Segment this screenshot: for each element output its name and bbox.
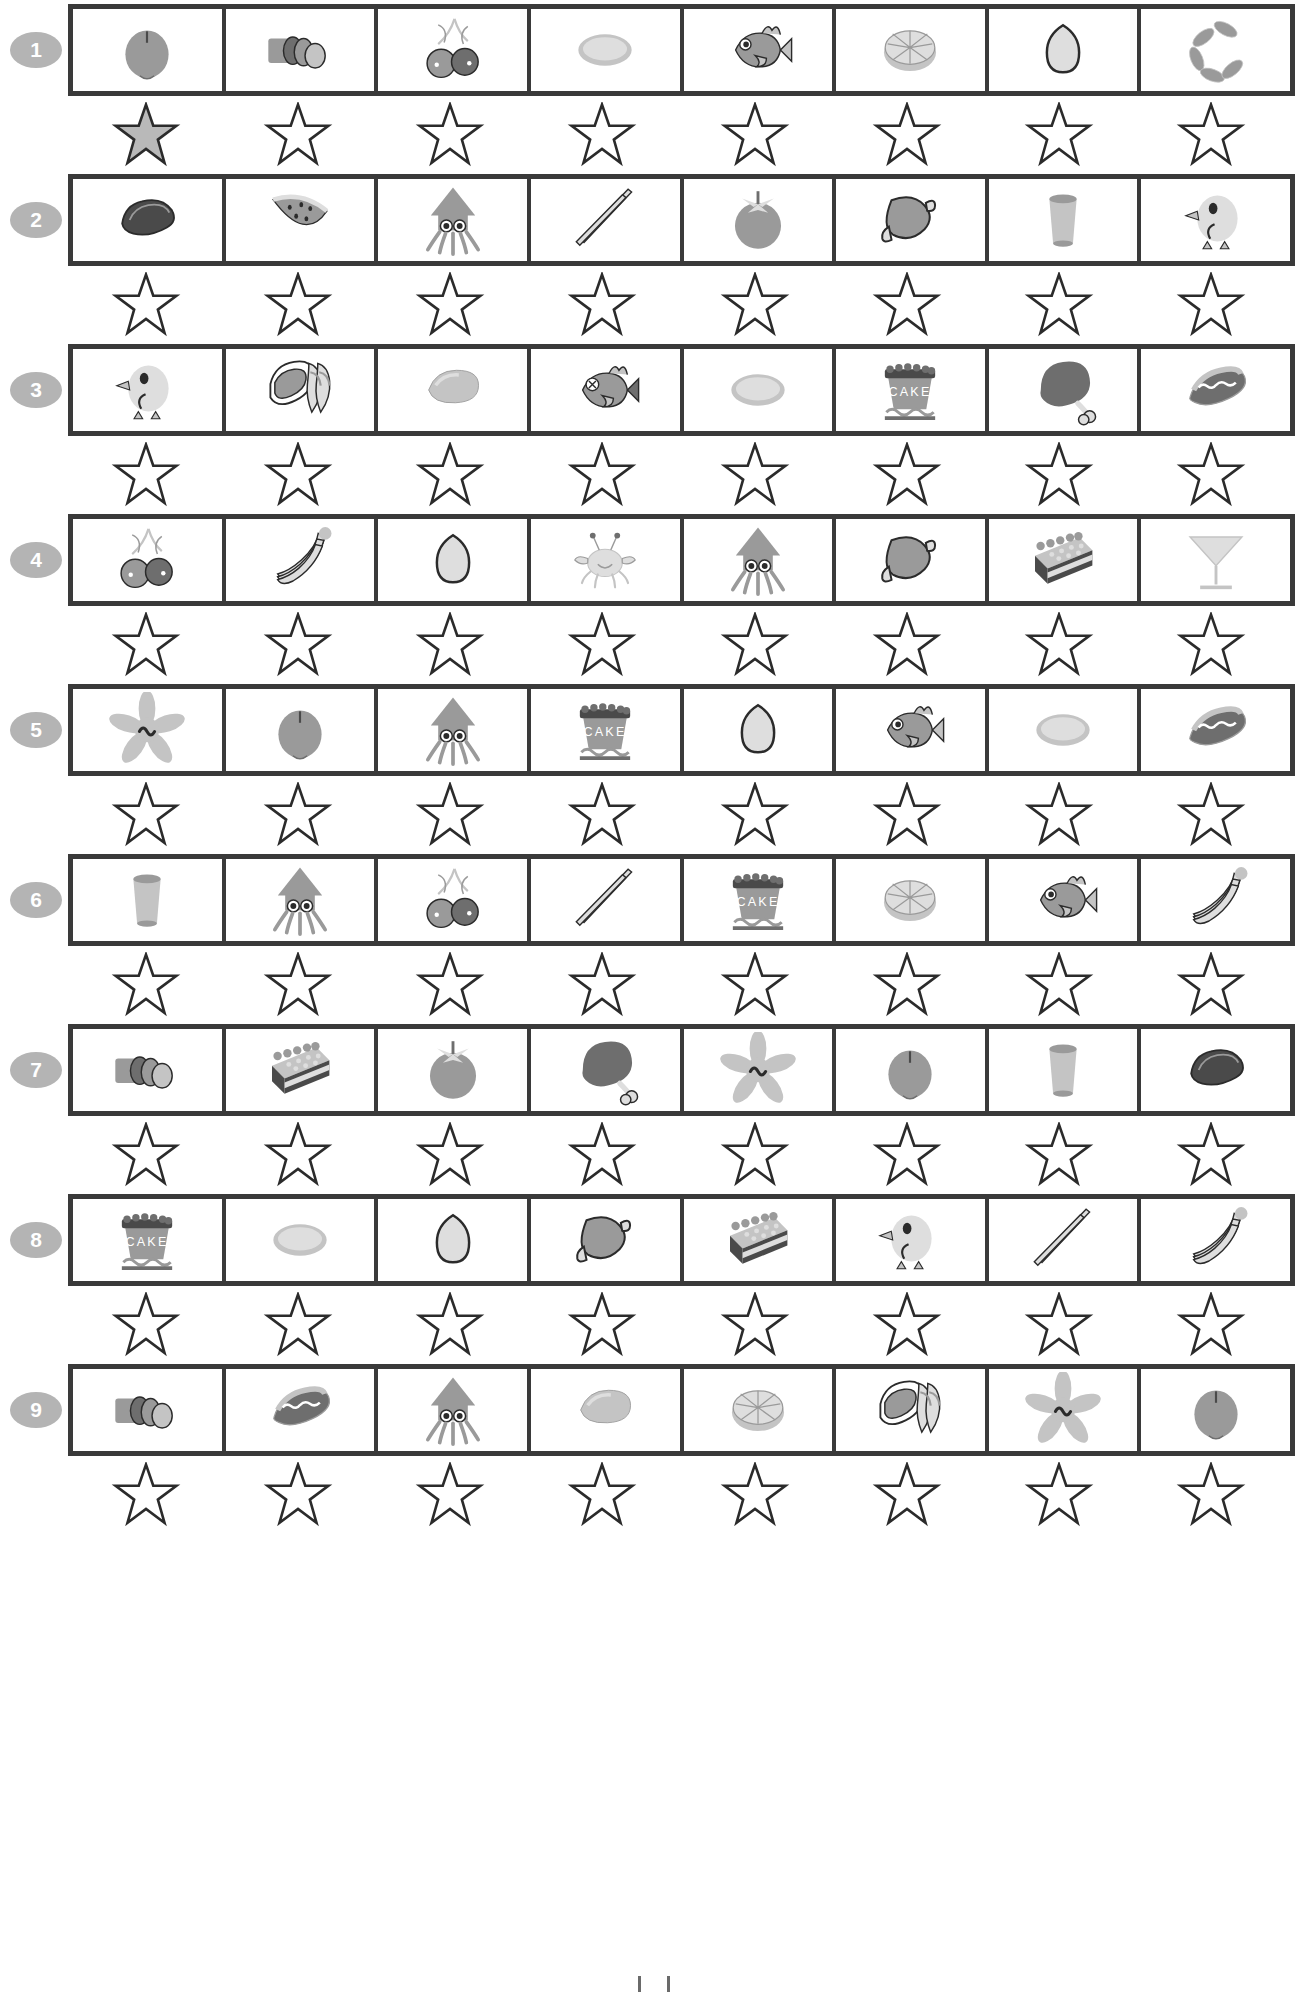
- picture-cell-cherries[interactable]: [378, 9, 531, 91]
- picture-cell-steak[interactable]: [73, 179, 226, 261]
- star-empty[interactable]: [222, 102, 374, 168]
- picture-cell-tomato[interactable]: [378, 1029, 531, 1111]
- picture-cell-bacon-sandwich[interactable]: [226, 349, 379, 431]
- star-empty[interactable]: [831, 782, 983, 848]
- picture-cell-martini-glass[interactable]: [1141, 519, 1290, 601]
- star-empty[interactable]: [679, 1122, 831, 1188]
- picture-cell-sausage-slices[interactable]: [226, 9, 379, 91]
- star-empty[interactable]: [983, 102, 1135, 168]
- picture-cell-egg[interactable]: [989, 9, 1142, 91]
- picture-cell-tomato[interactable]: [684, 179, 837, 261]
- picture-cell-starfish[interactable]: [989, 1369, 1142, 1451]
- star-empty[interactable]: [374, 1292, 526, 1358]
- star-empty[interactable]: [374, 102, 526, 168]
- picture-cell-ham[interactable]: [836, 179, 989, 261]
- picture-cell-apple[interactable]: [836, 1029, 989, 1111]
- picture-cell-cake-slice[interactable]: [989, 519, 1142, 601]
- picture-cell-sausage-links[interactable]: [1141, 9, 1290, 91]
- picture-cell-apple[interactable]: [226, 689, 379, 771]
- star-empty[interactable]: [70, 442, 222, 508]
- picture-cell-chick[interactable]: [1141, 179, 1290, 261]
- picture-cell-squid[interactable]: [378, 179, 531, 261]
- star-empty[interactable]: [374, 442, 526, 508]
- picture-cell-orange-half[interactable]: [836, 9, 989, 91]
- picture-cell-cup[interactable]: [989, 179, 1142, 261]
- picture-cell-mango[interactable]: [531, 1369, 684, 1451]
- star-empty[interactable]: [222, 272, 374, 338]
- picture-cell-squid[interactable]: [226, 859, 379, 941]
- picture-cell-chick[interactable]: [73, 349, 226, 431]
- star-empty[interactable]: [70, 1292, 222, 1358]
- star-empty[interactable]: [679, 612, 831, 678]
- star-empty[interactable]: [679, 102, 831, 168]
- picture-cell-steak[interactable]: [1141, 1029, 1290, 1111]
- star-empty[interactable]: [526, 272, 678, 338]
- star-empty[interactable]: [222, 782, 374, 848]
- picture-cell-cup[interactable]: [73, 859, 226, 941]
- star-empty[interactable]: [70, 612, 222, 678]
- picture-cell-mango[interactable]: [378, 349, 531, 431]
- star-empty[interactable]: [1135, 782, 1287, 848]
- star-empty[interactable]: [1135, 952, 1287, 1018]
- star-empty[interactable]: [374, 272, 526, 338]
- picture-cell-starfish[interactable]: [73, 689, 226, 771]
- picture-cell-hotdog[interactable]: [1141, 689, 1290, 771]
- picture-cell-cake[interactable]: CAKE: [73, 1199, 226, 1281]
- picture-cell-orange-half[interactable]: [684, 1369, 837, 1451]
- star-empty[interactable]: [983, 612, 1135, 678]
- picture-cell-bananas[interactable]: [1141, 1199, 1290, 1281]
- star-empty[interactable]: [222, 1462, 374, 1528]
- picture-cell-hotdog[interactable]: [1141, 349, 1290, 431]
- picture-cell-crab[interactable]: [531, 519, 684, 601]
- picture-cell-fish[interactable]: [989, 859, 1142, 941]
- star-empty[interactable]: [374, 1122, 526, 1188]
- star-empty[interactable]: [222, 1122, 374, 1188]
- picture-cell-drumstick[interactable]: [531, 1029, 684, 1111]
- picture-cell-cake[interactable]: CAKE: [684, 859, 837, 941]
- picture-cell-apple[interactable]: [1141, 1369, 1290, 1451]
- picture-cell-orange-half[interactable]: [836, 859, 989, 941]
- star-empty[interactable]: [526, 612, 678, 678]
- picture-cell-squid[interactable]: [684, 519, 837, 601]
- star-empty[interactable]: [1135, 272, 1287, 338]
- picture-cell-cake[interactable]: CAKE: [531, 689, 684, 771]
- star-empty[interactable]: [679, 952, 831, 1018]
- star-empty[interactable]: [679, 1292, 831, 1358]
- picture-cell-fish[interactable]: [836, 689, 989, 771]
- star-empty[interactable]: [374, 952, 526, 1018]
- star-empty[interactable]: [374, 1462, 526, 1528]
- picture-cell-plate[interactable]: [531, 9, 684, 91]
- picture-cell-cake[interactable]: CAKE: [836, 349, 989, 431]
- star-empty[interactable]: [831, 1462, 983, 1528]
- picture-cell-apple[interactable]: [73, 9, 226, 91]
- star-empty[interactable]: [983, 1462, 1135, 1528]
- picture-cell-cake-slice[interactable]: [684, 1199, 837, 1281]
- star-empty[interactable]: [831, 1122, 983, 1188]
- picture-cell-bananas[interactable]: [1141, 859, 1290, 941]
- star-filled[interactable]: [70, 102, 222, 168]
- star-empty[interactable]: [70, 1462, 222, 1528]
- picture-cell-drumstick[interactable]: [989, 349, 1142, 431]
- picture-cell-egg[interactable]: [684, 689, 837, 771]
- picture-cell-cherries[interactable]: [73, 519, 226, 601]
- star-empty[interactable]: [831, 272, 983, 338]
- picture-cell-cup[interactable]: [989, 1029, 1142, 1111]
- picture-cell-chopsticks[interactable]: [531, 859, 684, 941]
- picture-cell-watermelon[interactable]: [226, 179, 379, 261]
- picture-cell-chopsticks[interactable]: [531, 179, 684, 261]
- star-empty[interactable]: [526, 782, 678, 848]
- picture-cell-starfish[interactable]: [684, 1029, 837, 1111]
- star-empty[interactable]: [222, 1292, 374, 1358]
- star-empty[interactable]: [70, 272, 222, 338]
- star-empty[interactable]: [983, 442, 1135, 508]
- star-empty[interactable]: [526, 1122, 678, 1188]
- star-empty[interactable]: [526, 1462, 678, 1528]
- picture-cell-chopsticks[interactable]: [989, 1199, 1142, 1281]
- star-empty[interactable]: [1135, 1122, 1287, 1188]
- picture-cell-plate[interactable]: [684, 349, 837, 431]
- picture-cell-bananas[interactable]: [226, 519, 379, 601]
- star-empty[interactable]: [679, 272, 831, 338]
- star-empty[interactable]: [983, 1292, 1135, 1358]
- star-empty[interactable]: [983, 952, 1135, 1018]
- picture-cell-cherries[interactable]: [378, 859, 531, 941]
